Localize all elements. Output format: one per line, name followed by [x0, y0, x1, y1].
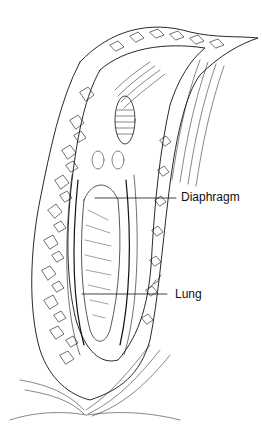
muscle-striations-upper	[92, 62, 165, 169]
skin-folds-bottom	[10, 345, 180, 420]
anatomical-illustration	[0, 0, 262, 428]
lung-label: Lung	[175, 287, 202, 301]
fatty-tissue-top	[110, 29, 224, 51]
diaphragm-label: Diaphragm	[181, 190, 240, 204]
lung-drawing	[67, 175, 137, 355]
outer-skin-outline	[32, 27, 258, 400]
skin-folds-right	[172, 60, 224, 186]
